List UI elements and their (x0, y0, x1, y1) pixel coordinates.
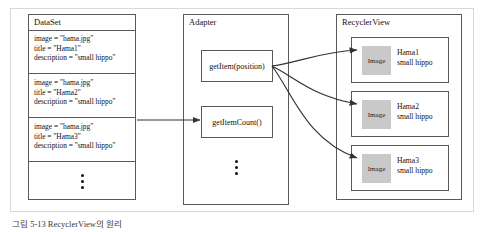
vertical-ellipsis-icon (184, 155, 288, 179)
adapter-title: Adapter (189, 17, 216, 27)
recyclerview-item-text: Hama1 small hippo (397, 48, 433, 68)
dataset-item-description: description = "small hippo" (34, 97, 130, 107)
dataset-item-description: description = "small hippo" (34, 53, 130, 63)
recyclerview-item-title: Hama3 (397, 156, 433, 166)
recyclerview-item: Image Hama3 small hippo (351, 145, 449, 191)
recyclerview-diagram: DataSet image = "hama.jpg" title = "Hama… (0, 0, 485, 232)
dataset-item-title: title = "Hama3" (34, 132, 130, 142)
get-item-method-box: getItem(position) (201, 50, 273, 82)
get-item-label: getItem(position) (209, 62, 265, 71)
dataset-item-row: image = "hama.jpg" title = "Hama1" descr… (29, 30, 135, 74)
recyclerview-item: Image Hama1 small hippo (351, 37, 449, 83)
dataset-ellipsis-row (29, 162, 135, 200)
dataset-item-title: title = "Hama1" (34, 44, 130, 54)
recyclerview-item: Image Hama2 small hippo (351, 91, 449, 137)
image-placeholder: Image (362, 100, 391, 129)
dataset-item-image: image = "hama.jpg" (34, 122, 130, 132)
recyclerview-item-description: small hippo (397, 166, 433, 176)
dataset-title: DataSet (34, 17, 61, 27)
dataset-panel: DataSet image = "hama.jpg" title = "Hama… (28, 14, 136, 200)
dataset-item-row: image = "hama.jpg" title = "Hama2" descr… (29, 74, 135, 118)
recyclerview-title: RecyclerView (342, 17, 390, 27)
dataset-item-title: title = "Hama2" (34, 88, 130, 98)
image-placeholder: Image (362, 154, 391, 183)
recyclerview-item-title: Hama2 (397, 102, 433, 112)
dataset-item-row: image = "hama.jpg" title = "Hama3" descr… (29, 118, 135, 162)
recyclerview-item-description: small hippo (397, 58, 433, 68)
dataset-item-image: image = "hama.jpg" (34, 34, 130, 44)
recyclerview-item-text: Hama2 small hippo (397, 102, 433, 122)
adapter-panel: Adapter getItem(position) getItemCount() (183, 14, 289, 205)
figure-caption: 그림 5-13 RecyclerView의 원리 (12, 217, 122, 229)
recyclerview-item-title: Hama1 (397, 48, 433, 58)
image-placeholder-label: Image (368, 111, 386, 119)
image-placeholder: Image (362, 46, 391, 75)
image-placeholder-label: Image (368, 57, 386, 65)
recyclerview-item-description: small hippo (397, 112, 433, 122)
get-item-count-label: getItemCount() (212, 118, 261, 127)
recyclerview-panel: RecyclerView Image Hama1 small hippo Ima… (336, 14, 462, 200)
dataset-item-description: description = "small hippo" (34, 141, 130, 151)
dataset-item-image: image = "hama.jpg" (34, 78, 130, 88)
vertical-ellipsis-icon (29, 162, 135, 200)
recyclerview-item-text: Hama3 small hippo (397, 156, 433, 176)
image-placeholder-label: Image (368, 165, 386, 173)
get-item-count-method-box: getItemCount() (201, 106, 273, 138)
